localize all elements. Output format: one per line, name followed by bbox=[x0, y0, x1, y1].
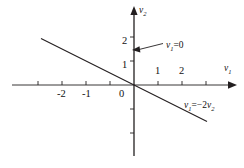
x-axis-label: v1 bbox=[224, 64, 231, 75]
x-axis-ticks bbox=[38, 81, 206, 85]
origin-label: 0 bbox=[119, 89, 124, 100]
equation-label-v1-eq-minus-2v2: v1=−2v2 bbox=[184, 101, 214, 112]
x-tick-label-neg-2: -2 bbox=[57, 89, 66, 100]
x-tick-label-neg-1: -1 bbox=[82, 89, 91, 100]
annotation-pointer-arrow bbox=[132, 44, 163, 53]
x-tick-label-1: 1 bbox=[155, 66, 160, 77]
equation-rhs-subscript: 2 bbox=[211, 105, 214, 112]
y-tick-label-2: 2 bbox=[122, 36, 127, 47]
y-axis-label-subscript: 2 bbox=[143, 10, 146, 17]
annotation-v1-equals-zero: v1=0 bbox=[166, 41, 184, 52]
y-axis-label: v2 bbox=[139, 6, 146, 17]
y-tick-label-1: 1 bbox=[122, 60, 127, 71]
x-axis-arrowhead bbox=[228, 81, 237, 89]
annotation-v1-relation: =0 bbox=[173, 40, 183, 50]
y-axis-arrowhead bbox=[130, 6, 137, 15]
x-axis-label-subscript: 1 bbox=[228, 68, 231, 75]
coordinate-plane-figure: v2 v1 2 1 -2 -1 0 1 2 v1=0 v1=−2v2 bbox=[0, 0, 244, 168]
equation-relation: =−2 bbox=[191, 100, 206, 110]
plot-canvas bbox=[0, 0, 244, 168]
x-tick-label-2: 2 bbox=[179, 66, 184, 77]
